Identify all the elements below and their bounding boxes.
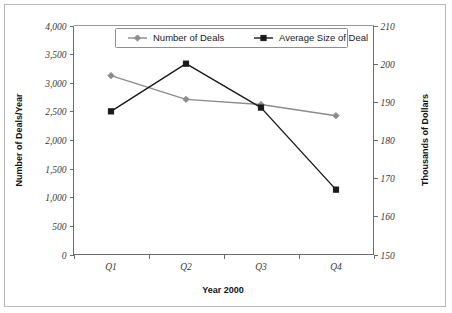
x-tick-label-q2: Q2 xyxy=(180,262,192,272)
y2-axis-ticks: 150160170180190200210 xyxy=(374,22,396,261)
plot-frame xyxy=(74,26,374,255)
series-1 xyxy=(108,72,339,118)
y-tick-label: 2,000 xyxy=(45,136,67,146)
y-tick-label: 0 xyxy=(62,251,67,261)
x-axis-ticks: Q1Q2Q3Q4 xyxy=(75,255,375,272)
series-2 xyxy=(108,61,338,192)
y-tick-label: 1,500 xyxy=(45,165,67,175)
legend-label-1: Number of Deals xyxy=(153,32,225,43)
y-tick-label: 500 xyxy=(52,222,67,232)
y-tick-label: 4,000 xyxy=(45,22,67,32)
y-axis-title: Number of Deals/Year xyxy=(14,93,24,187)
y2-tick-label: 190 xyxy=(381,98,396,108)
y-axis-ticks: 05001,0001,5002,0002,5003,0003,5004,000 xyxy=(44,22,73,261)
marker-square xyxy=(108,109,113,114)
legend-label-2: Average Size of Deal xyxy=(279,32,368,43)
y2-tick-label: 150 xyxy=(381,251,396,261)
marker-diamond xyxy=(333,113,339,119)
y2-tick-label: 160 xyxy=(381,212,396,222)
marker-square xyxy=(261,35,266,40)
marker-diamond xyxy=(108,72,114,78)
chart-legend[interactable]: Number of DealsAverage Size of Deal xyxy=(116,29,369,48)
series-line xyxy=(111,64,336,190)
marker-square xyxy=(258,105,263,110)
line-chart: 05001,0001,5002,0002,5003,0003,5004,000 … xyxy=(0,0,452,313)
x-tick-label-q3: Q3 xyxy=(255,262,267,272)
data-series-layer xyxy=(108,61,339,192)
y2-axis-title: Thousands of Dollars xyxy=(420,94,430,186)
y-tick-label: 1,000 xyxy=(45,193,67,203)
marker-square xyxy=(333,187,338,192)
y-tick-label: 3,500 xyxy=(44,50,67,60)
y-tick-label: 2,500 xyxy=(45,107,67,117)
marker-square xyxy=(183,61,188,66)
x-tick-label-q4: Q4 xyxy=(330,262,342,272)
x-tick-label-q1: Q1 xyxy=(105,262,117,272)
y-tick-label: 3,000 xyxy=(44,79,67,89)
y2-tick-label: 200 xyxy=(381,60,396,70)
y2-tick-label: 210 xyxy=(381,22,396,32)
series-line xyxy=(111,76,336,116)
x-axis-title: Year 2000 xyxy=(202,285,244,295)
y2-tick-label: 180 xyxy=(381,136,396,146)
y2-tick-label: 170 xyxy=(381,174,396,184)
marker-diamond xyxy=(183,96,189,102)
